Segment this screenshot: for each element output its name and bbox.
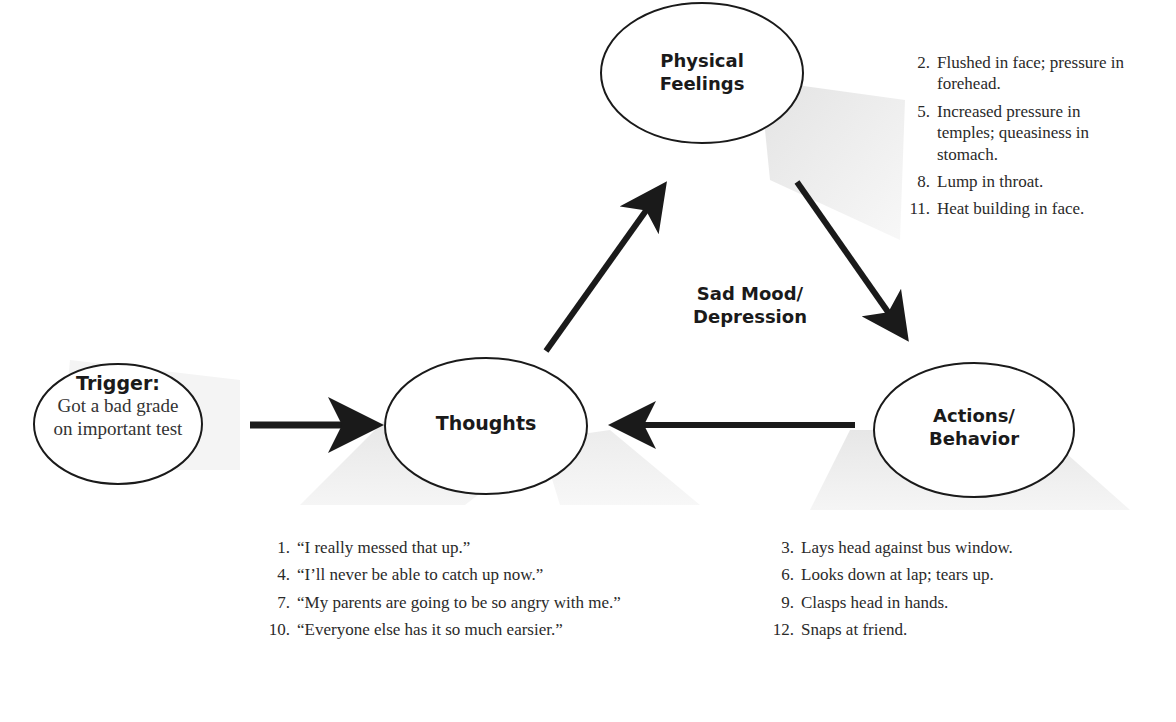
list-item: 2.Flushed in face; pressure in forehead.: [902, 52, 1172, 95]
physical-list: 2.Flushed in face; pressure in forehead.…: [902, 52, 1172, 226]
trigger-line1: Got a bad grade: [30, 395, 206, 418]
trigger-title: Trigger:: [30, 372, 206, 395]
list-item: 6.Looks down at lap; tears up.: [766, 564, 1096, 585]
physical-line1: Physical: [602, 50, 802, 73]
physical-line2: Feelings: [602, 73, 802, 96]
center-label-line1: Sad Mood/: [670, 282, 830, 305]
thoughts-node-label: Thoughts: [386, 412, 586, 435]
trigger-node-label: Trigger: Got a bad grade on important te…: [30, 372, 206, 440]
actions-list: 3.Lays head against bus window. 6.Looks …: [766, 537, 1096, 647]
list-item: 10.“Everyone else has it so much earsier…: [262, 619, 642, 640]
list-item: 11.Heat building in face.: [902, 198, 1172, 219]
actions-line1: Actions/: [874, 405, 1074, 428]
actions-line2: Behavior: [874, 428, 1074, 451]
center-label: Sad Mood/ Depression: [670, 282, 830, 329]
list-item: 1.“I really messed that up.”: [262, 537, 642, 558]
diagram-canvas: Trigger: Got a bad grade on important te…: [0, 0, 1176, 722]
center-label-line2: Depression: [670, 305, 830, 328]
list-item: 8.Lump in throat.: [902, 171, 1172, 192]
arrow-thoughts-to-physical: [546, 191, 660, 351]
list-item: 4.“I’ll never be able to catch up now.”: [262, 564, 642, 585]
list-item: 5.Increased pressure in temples; queasin…: [902, 101, 1172, 165]
list-item: 7.“My parents are going to be so angry w…: [262, 592, 642, 613]
list-item: 12.Snaps at friend.: [766, 619, 1096, 640]
list-item: 9.Clasps head in hands.: [766, 592, 1096, 613]
physical-node-label: Physical Feelings: [602, 50, 802, 95]
thoughts-list: 1.“I really messed that up.” 4.“I’ll nev…: [262, 537, 642, 647]
list-item: 3.Lays head against bus window.: [766, 537, 1096, 558]
actions-node-label: Actions/ Behavior: [874, 405, 1074, 450]
trigger-line2: on important test: [30, 418, 206, 441]
